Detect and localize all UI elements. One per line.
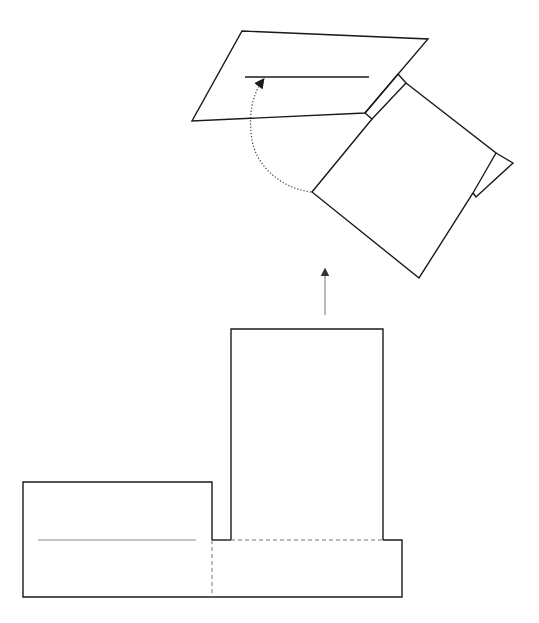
tall-panel (231, 329, 383, 540)
main-panel (312, 83, 496, 278)
fold-motion-arrow (250, 80, 311, 192)
hinge-strip (365, 74, 406, 119)
folded-result (192, 31, 513, 278)
folding-diagram (0, 0, 539, 623)
base-strip (212, 540, 402, 597)
unfolded-net (23, 329, 402, 597)
top-flap (192, 31, 428, 121)
